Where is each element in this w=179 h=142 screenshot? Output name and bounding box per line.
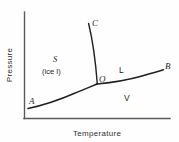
region-label-liquid: L	[119, 65, 124, 75]
y-axis-label: Pressure	[5, 48, 14, 83]
region-label-solid: S	[53, 54, 58, 64]
fusion-curve	[89, 24, 98, 85]
sublimation-curve	[28, 84, 97, 109]
point-label-a: A	[28, 96, 35, 106]
phase-diagram-figure: A B C O S (ice I) L V Temperature Pressu…	[0, 0, 179, 142]
point-label-o: O	[99, 74, 106, 84]
point-label-c: C	[92, 18, 99, 28]
phase-diagram-svg: A B C O S (ice I) L V Temperature Pressu…	[0, 0, 179, 142]
x-axis-label: Temperature	[73, 129, 121, 138]
vaporization-curve	[97, 70, 164, 84]
region-label-vapor: V	[124, 93, 130, 103]
region-label-solid-sub: (ice I)	[42, 67, 61, 76]
point-label-b: B	[165, 61, 171, 71]
